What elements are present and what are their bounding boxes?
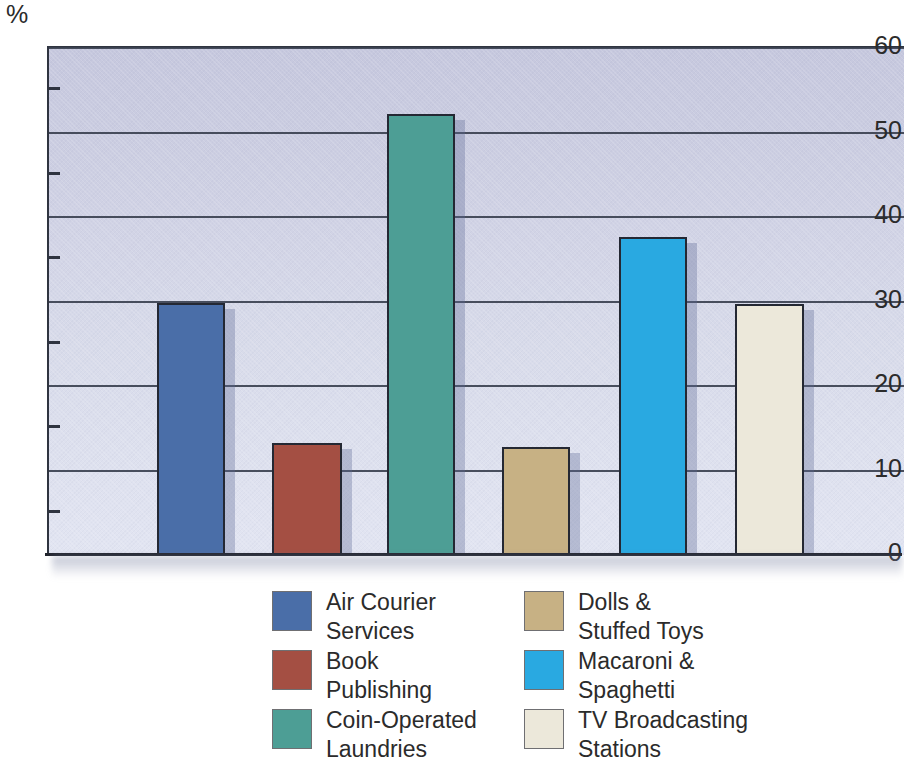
legend-label: Macaroni & Spaghetti — [578, 647, 694, 704]
legend-swatch — [272, 591, 312, 631]
bar-coin-operated-laundries — [387, 114, 455, 555]
y-axis-minor-tick — [47, 172, 60, 175]
y-axis-minor-tick — [47, 510, 60, 513]
legend-label: Air Courier Services — [326, 588, 436, 645]
legend-swatch — [272, 650, 312, 690]
legend-item: Macaroni & Spaghetti — [524, 647, 776, 706]
y-axis-tick-label: 10 — [862, 456, 902, 481]
bar-tv-broadcasting-stations — [735, 304, 804, 555]
legend-swatch — [524, 591, 564, 631]
y-axis-minor-tick — [47, 341, 60, 344]
y-axis-tick-label: 30 — [862, 287, 902, 312]
legend-label: Book Publishing — [326, 647, 432, 704]
y-axis-unit-label: % — [6, 2, 29, 27]
y-axis-tick-label: 40 — [862, 202, 902, 227]
legend-item: Dolls & Stuffed Toys — [524, 588, 776, 647]
y-axis-tick-label: 50 — [862, 118, 902, 143]
y-axis-minor-tick — [47, 256, 60, 259]
bar-air-courier-services — [157, 303, 225, 555]
legend-item: TV Broadcasting Stations — [524, 706, 776, 765]
gridline — [49, 47, 904, 49]
gridline — [49, 132, 904, 134]
legend-swatch — [524, 709, 564, 749]
legend-item: Coin-Operated Laundries — [272, 706, 524, 765]
bar-macaroni-spaghetti — [619, 237, 687, 555]
y-axis-minor-tick — [47, 87, 60, 90]
legend-item: Air Courier Services — [272, 588, 524, 647]
bar-dolls-stuffed-toys — [502, 447, 570, 555]
plot-area — [47, 46, 904, 555]
bar-book-publishing — [272, 443, 342, 555]
y-axis-tick-label: 60 — [862, 33, 902, 58]
y-axis-minor-tick — [47, 425, 60, 428]
legend-label: Dolls & Stuffed Toys — [578, 588, 704, 645]
y-axis-tick-label: 20 — [862, 371, 902, 396]
legend-label: TV Broadcasting Stations — [578, 706, 748, 763]
gridline — [49, 301, 904, 303]
legend-item: Book Publishing — [272, 647, 524, 706]
plot-drop-shadow — [52, 556, 902, 578]
legend-label: Coin-Operated Laundries — [326, 706, 477, 763]
legend-swatch — [272, 709, 312, 749]
gridline — [49, 216, 904, 218]
legend: Air Courier ServicesDolls & Stuffed Toys… — [272, 588, 872, 765]
legend-swatch — [524, 650, 564, 690]
